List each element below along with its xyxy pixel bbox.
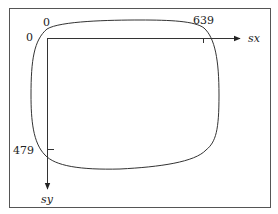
origin-x-label: 0 xyxy=(43,16,50,29)
x-max-label: 639 xyxy=(193,14,214,27)
x-axis-label: sx xyxy=(248,32,261,45)
y-axis-label: sy xyxy=(41,193,54,206)
origin-y-label: 0 xyxy=(26,31,33,44)
screen-coordinate-diagram: 0 0 639 479 sx sy xyxy=(0,0,278,214)
y-max-label: 479 xyxy=(13,144,34,157)
screen-outline xyxy=(31,20,219,169)
